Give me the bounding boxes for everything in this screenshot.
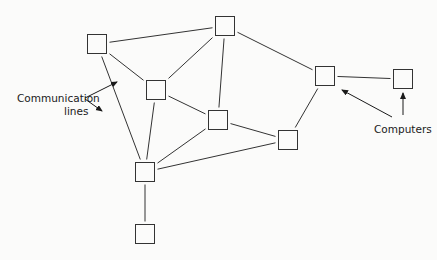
communication-line — [147, 103, 155, 160]
computer-nodes — [88, 17, 413, 244]
computer-node-icon — [209, 111, 228, 130]
communication-line — [238, 32, 313, 70]
computer-node-icon — [136, 225, 155, 244]
communication-line — [295, 89, 318, 128]
communication-line — [102, 57, 141, 160]
communication-line — [338, 76, 391, 78]
communication-line — [219, 39, 224, 108]
computer-node-icon — [136, 163, 155, 182]
communication-line — [158, 143, 276, 169]
communication-line — [169, 96, 206, 114]
communication-line — [231, 124, 276, 137]
computer-node-icon — [394, 70, 413, 89]
computer-node-icon — [279, 131, 298, 150]
arrow-icon — [342, 90, 392, 117]
communication-label: Communication — [17, 92, 100, 104]
lines-label: lines — [64, 105, 88, 117]
communication-line — [169, 38, 213, 79]
communication-lines — [102, 28, 391, 222]
computers-annotation: Computers — [342, 90, 432, 135]
computer-node-icon — [316, 67, 335, 86]
computer-node-icon — [147, 81, 166, 100]
network-diagram: Communication lines Computers — [0, 0, 437, 260]
communication-line — [110, 28, 213, 42]
communication-lines-annotation: Communication lines — [17, 82, 117, 117]
communication-line — [158, 129, 206, 163]
computer-node-icon — [88, 35, 107, 54]
computer-node-icon — [216, 17, 235, 36]
computers-label: Computers — [374, 123, 432, 135]
arrow-icon — [85, 82, 117, 98]
communication-line — [110, 54, 144, 81]
